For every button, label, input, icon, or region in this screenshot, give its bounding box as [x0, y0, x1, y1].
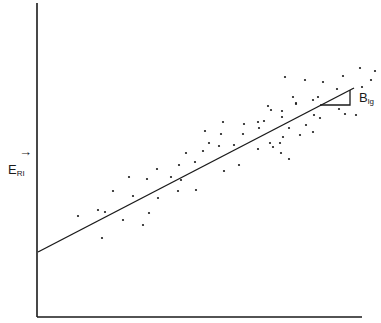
data-point: [284, 76, 286, 78]
data-point: [269, 142, 271, 144]
data-point: [202, 150, 204, 152]
data-point: [112, 190, 114, 192]
data-point: [338, 108, 340, 110]
data-point: [132, 195, 134, 197]
data-point: [101, 237, 103, 239]
data-point: [220, 133, 222, 135]
data-point: [267, 105, 269, 107]
data-point: [355, 114, 357, 116]
y-axis-label: ERI: [8, 163, 25, 178]
data-point: [370, 79, 372, 81]
scatter-plot: [0, 0, 381, 323]
data-point: [177, 190, 179, 192]
data-point: [194, 161, 196, 163]
data-point: [282, 136, 284, 138]
data-point: [272, 146, 274, 148]
data-point: [222, 121, 224, 123]
data-point: [223, 170, 225, 172]
data-point: [288, 158, 290, 160]
y-axis-arrow-icon: →: [19, 144, 32, 159]
data-point: [204, 130, 206, 132]
data-point: [97, 209, 99, 211]
data-point: [280, 152, 282, 154]
data-point: [242, 133, 244, 135]
data-point: [263, 120, 265, 122]
data-point: [313, 114, 315, 116]
data-points: [77, 67, 376, 239]
data-point: [359, 67, 361, 69]
regression-line: [38, 88, 354, 252]
data-point: [170, 176, 172, 178]
data-point: [238, 164, 240, 166]
data-point: [295, 103, 297, 105]
data-point: [361, 86, 363, 88]
data-point: [374, 70, 376, 72]
data-point: [128, 176, 130, 178]
data-point: [281, 110, 283, 112]
data-point: [257, 148, 259, 150]
data-point: [180, 179, 182, 181]
data-point: [270, 109, 272, 111]
data-point: [157, 197, 159, 199]
data-point: [288, 127, 290, 129]
data-point: [319, 117, 321, 119]
data-point: [218, 145, 220, 147]
data-point: [146, 178, 148, 180]
data-point: [312, 131, 314, 133]
data-point: [195, 189, 197, 191]
data-point: [142, 224, 144, 226]
data-point: [257, 121, 259, 123]
data-point: [317, 96, 319, 98]
data-point: [322, 81, 324, 83]
data-point: [185, 152, 187, 154]
data-point: [336, 88, 338, 90]
data-point: [156, 168, 158, 170]
slope-label: Blg: [359, 91, 374, 106]
data-point: [122, 219, 124, 221]
data-point: [178, 164, 180, 166]
data-point: [305, 124, 307, 126]
data-point: [279, 142, 281, 144]
data-point: [292, 96, 294, 98]
data-point: [299, 134, 301, 136]
data-point: [77, 215, 79, 217]
data-point: [344, 113, 346, 115]
data-point: [281, 116, 283, 118]
data-point: [208, 142, 210, 144]
data-point: [243, 123, 245, 125]
data-point: [148, 212, 150, 214]
data-point: [258, 127, 260, 129]
data-point: [104, 211, 106, 213]
data-point: [342, 75, 344, 77]
data-point: [312, 99, 314, 101]
data-point: [304, 79, 306, 81]
data-point: [233, 144, 235, 146]
